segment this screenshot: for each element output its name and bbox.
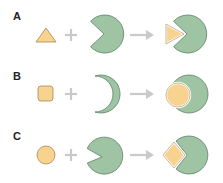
arrow-icon [130,89,154,99]
plus-icon [65,29,77,41]
arrow-icon [130,150,154,160]
plus-icon [65,149,77,161]
pacman-receptor-icon [91,15,124,53]
circle-ligand-icon [37,146,55,164]
plus-icon [65,88,77,100]
arrow-icon [130,30,154,40]
square-ligand-icon [38,86,53,101]
row-b [38,75,208,113]
diagram-canvas [0,0,223,183]
triangle-ligand-icon [36,28,56,42]
row-a [36,15,207,53]
crescent-receptor-icon [95,75,120,113]
row-c [37,136,208,174]
pacman-narrow-receptor-icon [87,137,123,174]
